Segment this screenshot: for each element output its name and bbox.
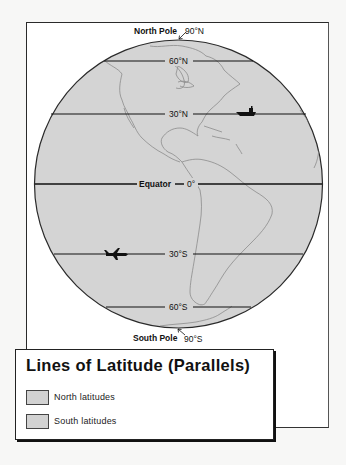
south-pole-label: South Pole bbox=[133, 333, 178, 343]
label-60n: 60°N bbox=[169, 56, 188, 66]
label-60s: 60°S bbox=[169, 302, 188, 312]
label-equator: Equator bbox=[139, 179, 172, 189]
label-0-degree: 0° bbox=[187, 179, 195, 189]
legend-title: Lines of Latitude (Parallels) bbox=[26, 356, 250, 375]
north-pole-label: North Pole bbox=[134, 26, 177, 36]
north-pole-degree: 90°N bbox=[185, 26, 204, 36]
label-30n: 30°N bbox=[169, 109, 188, 119]
legend-box: Lines of Latitude (Parallels) North lati… bbox=[15, 349, 274, 440]
legend-label-south: South latitudes bbox=[54, 416, 117, 426]
legend-swatch-south bbox=[26, 414, 49, 429]
legend-swatch-north bbox=[26, 390, 49, 405]
south-pole-degree: 90°S bbox=[184, 334, 203, 344]
label-30s: 30°S bbox=[169, 249, 188, 259]
legend-item-north: North latitudes bbox=[26, 389, 115, 405]
legend-label-north: North latitudes bbox=[54, 392, 115, 402]
legend-item-south: South latitudes bbox=[26, 413, 117, 429]
south-pole-arrow-icon bbox=[178, 329, 185, 335]
